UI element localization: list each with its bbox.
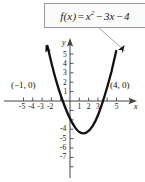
formula-fx: f(x) — [60, 10, 76, 22]
x-tick-label-5: 5 — [115, 103, 119, 111]
x-tick-label--3: -3 — [38, 103, 44, 111]
formula-term3: 4 — [124, 10, 130, 22]
formula-equals: = — [76, 10, 85, 22]
y-tick-label--5: -5 — [60, 135, 66, 143]
y-tick-label-2: 2 — [63, 79, 67, 87]
right-x-intercept-label: (4, 0) — [110, 81, 130, 90]
function-formula: f(x)=x2−3x−4 — [60, 9, 130, 22]
parabola-curve — [47, 46, 116, 134]
y-tick-label-5: 5 — [63, 51, 67, 59]
y-tick-marks — [70, 54, 74, 167]
formula-op2: − — [115, 10, 124, 22]
y-tick-label-1: 1 — [64, 88, 68, 96]
y-tick-label-4: 4 — [63, 60, 67, 68]
y-tick-label--7: -7 — [60, 153, 66, 161]
y-tick-label--6: -6 — [60, 144, 66, 152]
y-tick-label--4: -4 — [60, 125, 66, 133]
x-axis-label: x — [134, 103, 138, 111]
x-tick-label-3: 3 — [96, 103, 100, 111]
x-tick-label--5: -5 — [19, 103, 25, 111]
x-tick-label-1: 1 — [78, 103, 82, 111]
x-tick-label--4: -4 — [28, 103, 34, 111]
left-x-intercept-label: (−1, 0) — [11, 81, 36, 90]
x-tick-label-2: 2 — [87, 103, 91, 111]
x-tick-label--2: -2 — [47, 103, 53, 111]
formula-op1: − — [94, 10, 103, 22]
formula-term2: 3x — [104, 10, 115, 22]
y-axis-label: y — [62, 39, 66, 47]
y-tick-label-3: 3 — [63, 69, 67, 77]
function-callout-box: f(x)=x2−3x−4 — [44, 3, 145, 28]
parabola-figure: f(x)=x2−3x−4 y x -5 -4 -3 -2 1 2 3 5 5 4… — [0, 0, 145, 182]
callout-leader-line — [99, 28, 125, 51]
